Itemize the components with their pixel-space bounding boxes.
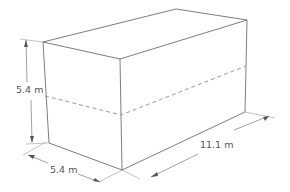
height-label: 5.4 m	[16, 84, 43, 95]
prism-diagram: 5.4 m 5.4 m 11.1 m	[0, 0, 290, 192]
length-dim-line-left	[151, 154, 198, 177]
width-label: 5.4 m	[50, 164, 77, 175]
length-extension-right	[245, 112, 275, 118]
height-extension-bottom	[26, 143, 49, 144]
mid-height-dashed-line	[45, 66, 246, 115]
length-arrow-right-icon	[263, 116, 269, 121]
length-extension-left	[122, 170, 140, 179]
height-extension-top	[20, 39, 43, 42]
width-extension-right	[99, 170, 122, 182]
front-left-edge	[43, 42, 49, 143]
length-label: 11.1 m	[200, 139, 233, 150]
width-arrow-right-icon	[93, 178, 100, 182]
height-dim-line-lower	[31, 100, 32, 142]
height-arrow-up-icon	[24, 40, 28, 47]
length-arrow-left-icon	[151, 172, 158, 177]
height-arrow-down-icon	[30, 136, 34, 143]
top-face	[43, 9, 247, 59]
prism-drawing	[0, 0, 290, 192]
width-arrow-left-icon	[28, 155, 35, 159]
